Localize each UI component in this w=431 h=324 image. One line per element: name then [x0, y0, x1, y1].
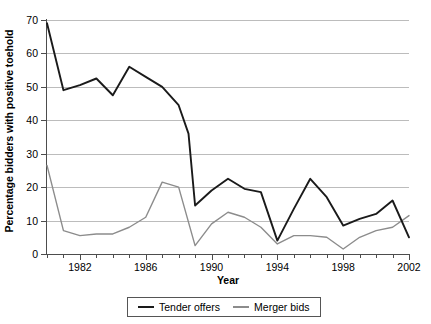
- x-axis-major-tick: [409, 254, 410, 260]
- legend-item: Merger bids: [233, 301, 309, 313]
- y-axis-tick-label: 60: [8, 47, 38, 59]
- x-axis-title: Year: [47, 274, 409, 286]
- series-line-tender-offers: [47, 23, 409, 240]
- x-axis-tick-label: 1990: [190, 261, 234, 273]
- y-axis-tick-label: 0: [8, 248, 38, 260]
- legend-item-label: Tender offers: [159, 301, 220, 313]
- y-axis-tick-label: 50: [8, 81, 38, 93]
- legend-swatch-icon: [138, 306, 154, 308]
- y-axis-tick-label: 10: [8, 215, 38, 227]
- chart-legend: Tender offersMerger bids: [127, 297, 321, 317]
- x-axis-tick-label: 1994: [255, 261, 299, 273]
- legend-item: Tender offers: [138, 301, 220, 313]
- x-axis-tick-label: 2002: [387, 261, 431, 273]
- chart-figure: Percentage bidders with positive toehold…: [0, 0, 431, 324]
- x-axis-line: [46, 254, 409, 255]
- x-axis-tick-label: 1986: [124, 261, 168, 273]
- plot-area: [47, 20, 409, 254]
- y-axis-tick-label: 30: [8, 148, 38, 160]
- y-axis-tick-label: 20: [8, 181, 38, 193]
- y-axis-title-text: Percentage bidders with positive toehold: [3, 30, 15, 233]
- y-axis-tick-label: 70: [8, 14, 38, 26]
- y-axis-tick-label: 40: [8, 114, 38, 126]
- legend-swatch-icon: [233, 306, 249, 308]
- series-lines: [47, 20, 409, 254]
- legend-item-label: Merger bids: [254, 301, 309, 313]
- x-axis-tick-label: 1982: [58, 261, 102, 273]
- x-axis-tick-label: 1998: [321, 261, 365, 273]
